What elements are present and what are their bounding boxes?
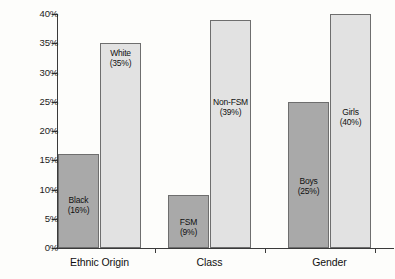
y-axis-tick-label-30: 30% xyxy=(12,67,58,78)
y-axis-tick-label-25: 25% xyxy=(12,96,58,107)
bar-label-girls: Girls (40%) xyxy=(331,107,370,127)
bar-label-boys: Boys (25%) xyxy=(289,176,328,196)
bar-non-fsm: Non-FSM (39%) xyxy=(210,20,251,248)
bar-chart: 0% 5% 10% 15% 20% 25% 30% 35% 40% Black xyxy=(0,0,395,279)
y-axis-tick-label-40: 40% xyxy=(12,8,58,19)
y-axis-tick-label-20: 20% xyxy=(12,125,58,136)
x-axis-group-label-ethnic-origin: Ethnic Origin xyxy=(42,256,157,268)
x-axis-group-label-gender: Gender xyxy=(272,256,387,268)
y-axis-tick-label-5: 5% xyxy=(12,213,58,224)
bar-label-non-fsm: Non-FSM (39%) xyxy=(211,97,250,117)
x-axis-tick-mark xyxy=(265,248,266,253)
y-axis-tick-label-0: 0% xyxy=(12,242,58,253)
x-axis-tick-mark xyxy=(375,248,376,253)
y-axis-tick-label-35: 35% xyxy=(12,37,58,48)
bar-boys: Boys (25%) xyxy=(288,102,329,248)
bar-label-black: Black (16%) xyxy=(59,195,98,215)
y-axis-tick-label-10: 10% xyxy=(12,184,58,195)
bar-white: White (35%) xyxy=(100,43,141,248)
bar-fsm: FSM (9%) xyxy=(168,195,209,248)
bar-black: Black (16%) xyxy=(58,154,99,248)
y-axis-tick-label-15: 15% xyxy=(12,154,58,165)
bar-girls: Girls (40%) xyxy=(330,14,371,248)
bar-label-fsm: FSM (9%) xyxy=(169,217,208,237)
x-axis-group-label-class: Class xyxy=(152,256,267,268)
x-axis-tick-mark xyxy=(155,248,156,253)
bar-label-white: White (35%) xyxy=(101,48,140,68)
x-axis-line xyxy=(57,248,394,249)
